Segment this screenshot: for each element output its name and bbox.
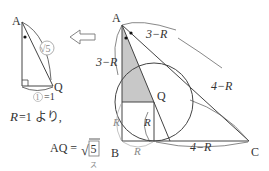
label-r-left: R	[112, 116, 120, 128]
angle-dot-left	[23, 35, 26, 38]
angle-dot-1	[124, 36, 127, 39]
left-triangle	[22, 22, 53, 91]
label-r-center: R	[143, 116, 151, 128]
angle-dot-2	[129, 31, 132, 34]
main-vertex-c: C	[251, 145, 259, 159]
answer-box-label: ス	[90, 161, 97, 169]
label-ab-upper: 3−R	[95, 55, 118, 69]
main-vertex-b: B	[111, 146, 119, 160]
main-vertex-q: Q	[157, 89, 166, 103]
left-hyp-label: √5	[40, 43, 51, 54]
text-r-rest: =1 より,	[19, 110, 62, 124]
answer-box-value: 5	[91, 142, 97, 156]
geometry-diagram: A Q √5 1 =1	[0, 0, 269, 171]
label-ac-upper: 3−R	[145, 27, 168, 41]
label-r-bottom: R	[133, 145, 141, 157]
left-vertex-q: Q	[54, 80, 63, 94]
left-vertex-a: A	[12, 14, 21, 28]
main-vertex-a: A	[112, 11, 121, 25]
text-aq-lhs: AQ =	[50, 141, 77, 155]
label-ac-lower: 4−R	[211, 79, 233, 93]
sqrt-sign: √	[81, 143, 89, 158]
left-base-eq: =1	[44, 91, 55, 102]
arrow-left-icon	[70, 30, 95, 44]
left-base-circled: 1	[36, 93, 40, 102]
label-bc-right: 4−R	[190, 140, 212, 154]
text-r-var: R	[9, 109, 18, 124]
